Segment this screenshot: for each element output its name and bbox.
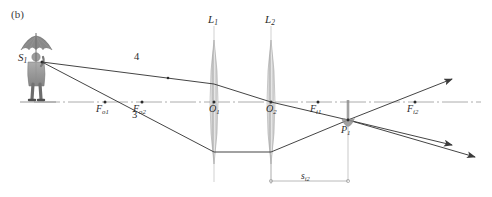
ray-through-Fi2 [348, 79, 452, 120]
object-figure-person [21, 33, 52, 100]
optics-figure: (b) S1 L1 L2 O1 O2 Fo1 Fo2 Fi1 Fi2 P1 4 … [0, 0, 492, 197]
ray-label-4: 4 [134, 52, 139, 63]
image-point-label-P1: P1 [341, 125, 351, 136]
ray-label-3: 3 [132, 110, 137, 121]
dimension-label-si2: si2 [301, 172, 310, 182]
focal-label-Fi1: Fi1 [310, 104, 321, 115]
lens-label-L1: L1 [208, 14, 218, 26]
image-point-P1 [341, 100, 355, 181]
optical-center-label-O1: O1 [209, 104, 220, 115]
optical-center-label-O2: O2 [266, 104, 277, 115]
object-label-S1: S1 [18, 52, 27, 64]
focal-label-Fi2: Fi2 [407, 104, 418, 115]
lens-label-L2: L2 [265, 14, 275, 26]
panel-label: (b) [11, 9, 24, 20]
focal-label-Fo1: Fo1 [96, 104, 109, 115]
figure-canvas [0, 0, 492, 197]
